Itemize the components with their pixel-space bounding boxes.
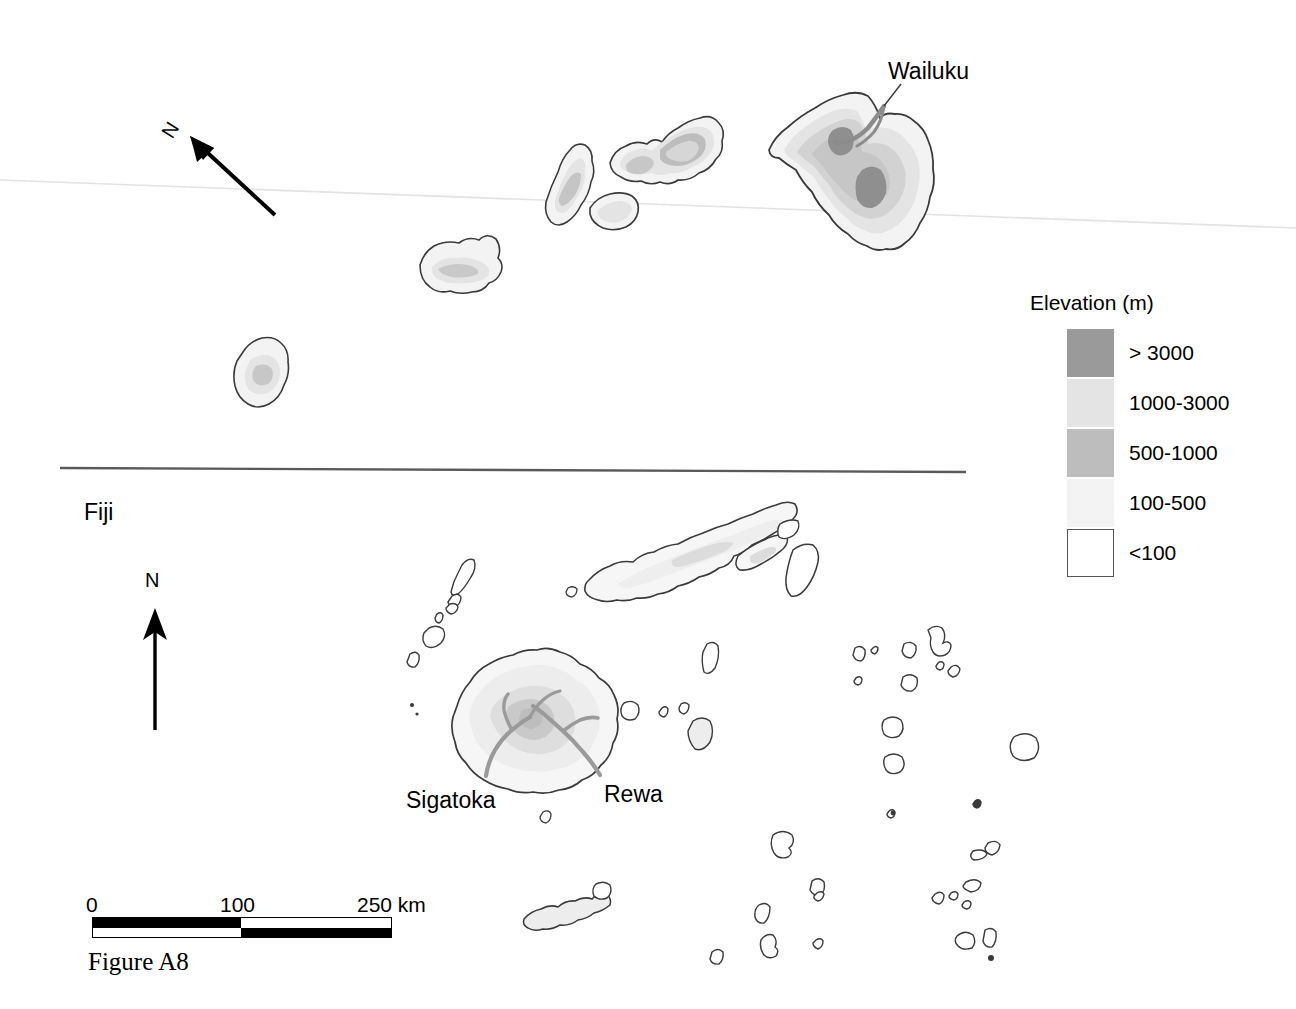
figure-caption: Figure A8 — [88, 948, 189, 976]
panel-divider — [60, 468, 966, 472]
island-molokai — [546, 144, 594, 225]
island-kauai — [234, 338, 289, 407]
north-arrow-label-fiji: N — [145, 570, 159, 590]
legend-label-500-1000: 500-1000 — [1129, 441, 1218, 465]
legend-title: Elevation (m) — [1030, 292, 1154, 313]
island-kadavu — [524, 882, 612, 930]
legend-label-lt100: <100 — [1129, 541, 1176, 565]
place-label-sigatoka: Sigatoka — [406, 789, 496, 812]
scale-tick-100: 100 — [220, 893, 255, 917]
figure-page: Wailuku N Fiji N Sigatoka Rewa Elevation… — [0, 0, 1296, 1009]
legend-row: > 3000 — [1067, 328, 1277, 378]
place-label-rewa: Rewa — [604, 783, 663, 806]
scale-tick-250: 250 km — [357, 893, 426, 917]
legend-row: 1000-3000 — [1067, 378, 1277, 428]
legend-row: 500-1000 — [1067, 428, 1277, 478]
scale-seg-top-left — [93, 918, 241, 928]
legend-swatch-500-1000 — [1067, 429, 1114, 477]
legend-label-1000-3000: 1000-3000 — [1129, 391, 1229, 415]
panel-title-fiji: Fiji — [84, 501, 113, 524]
scale-tick-0: 0 — [86, 893, 98, 917]
scale-seg-bottom-right — [241, 928, 391, 938]
scale-bar-graphic — [92, 917, 392, 938]
north-arrow-fiji — [143, 608, 167, 730]
island-group-lau — [659, 626, 1039, 964]
legend-swatch-1000-3000 — [1067, 379, 1114, 427]
island-maui — [610, 117, 723, 184]
legend-swatch-gt3000 — [1067, 329, 1114, 377]
legend-swatch-lt100 — [1067, 529, 1114, 577]
island-vanua-levu — [566, 502, 818, 601]
island-hawaii-big — [769, 84, 934, 250]
scale-bar-ticks: 0 100 250 km — [92, 893, 392, 917]
legend-label-gt3000: > 3000 — [1129, 341, 1194, 365]
legend-label-100-500: 100-500 — [1129, 491, 1206, 515]
scale-seg-bottom-left — [93, 928, 241, 938]
legend-swatch-100-500 — [1067, 479, 1114, 527]
wailuku-leader-line — [884, 84, 901, 106]
legend-row: 100-500 — [1067, 478, 1277, 528]
scale-seg-top-right — [241, 918, 391, 928]
scale-bar: 0 100 250 km — [92, 893, 392, 938]
island-lanai — [590, 193, 638, 230]
island-oahu — [420, 236, 502, 294]
legend: > 3000 1000-3000 500-1000 100-500 <100 — [1067, 328, 1277, 578]
latitude-guide-line — [0, 180, 1296, 228]
legend-row: <100 — [1067, 528, 1277, 578]
north-arrow-hawaii — [190, 136, 275, 215]
place-label-wailuku: Wailuku — [888, 60, 969, 83]
